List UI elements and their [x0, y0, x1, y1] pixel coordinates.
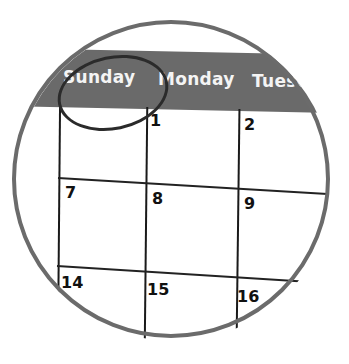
date-cell-16: 16 [237, 287, 259, 306]
magnifier-lens: Sunday Monday Tuesc 1 2 7 8 9 14 15 16 [15, 23, 333, 341]
grid-line-vertical [236, 109, 241, 341]
grid-line-vertical [57, 105, 61, 341]
date-cell-2: 2 [244, 115, 255, 134]
date-cell-7: 7 [65, 183, 76, 202]
weekday-tuesday: Tuesc [252, 71, 307, 91]
date-cell-15: 15 [147, 280, 169, 299]
grid-line-horizontal [58, 177, 328, 195]
grid-line-vertical [144, 107, 149, 341]
date-cell-14: 14 [61, 273, 83, 292]
magnified-calendar-illustration: Sunday Monday Tuesc 1 2 7 8 9 14 15 16 [0, 0, 349, 364]
date-cell-8: 8 [152, 189, 163, 208]
grid-line-horizontal [57, 265, 327, 284]
weekday-monday: Monday [158, 69, 235, 89]
date-cell-9: 9 [244, 194, 255, 213]
